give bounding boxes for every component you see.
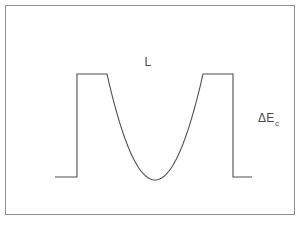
band-offset-label-base: ΔE <box>258 111 274 125</box>
figure-frame <box>6 6 295 215</box>
band-offset-label-subscript: c <box>275 119 279 128</box>
potential-profile-diagram: L ΔE c <box>0 0 306 233</box>
well-width-label: L <box>145 55 152 69</box>
figure-root: L ΔE c <box>0 0 306 233</box>
